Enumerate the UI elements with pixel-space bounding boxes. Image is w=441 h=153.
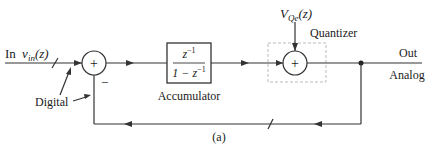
delta-sigma-diagram: In vin(z) Digital + − z−1 1 − z−1 Accumu… (0, 0, 441, 153)
noise-label: VQe(z) (280, 6, 312, 23)
arrow-icon (276, 60, 283, 66)
arrow-icon (74, 60, 82, 66)
arrow-icon (314, 121, 322, 127)
figure-caption: (a) (212, 130, 225, 144)
sum1-plus: + (90, 56, 98, 71)
arrow-icon (292, 43, 298, 51)
output-label: Out (399, 46, 418, 60)
arrow-icon (124, 121, 132, 127)
quantizer-label: Quantizer (310, 26, 357, 40)
accumulator-label: Accumulator (158, 89, 221, 103)
arrow-icon (126, 60, 134, 66)
sum2-plus: + (291, 56, 299, 71)
digital-pointer-1 (60, 72, 69, 95)
digital-pointer-2 (73, 97, 86, 101)
arrow-icon (241, 60, 249, 66)
input-label: In vin(z) (5, 46, 49, 63)
digital-label: Digital (35, 95, 69, 109)
arrow-icon (66, 67, 71, 75)
arrow-icon (84, 94, 91, 99)
sum1-minus: − (101, 75, 108, 90)
output-type-label: Analog (389, 68, 424, 82)
